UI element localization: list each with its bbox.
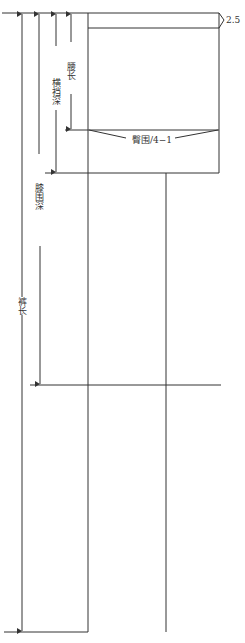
crotch-depth-label: 横裆深 <box>51 78 61 105</box>
waistband-bracket <box>219 13 224 28</box>
knee-depth-label: 膝围深 <box>34 183 44 210</box>
hip-measure-right <box>175 130 218 138</box>
hip-measure-left <box>89 130 126 138</box>
hip-length-label: 腰长 <box>66 62 76 80</box>
pattern-diagram: 2.5 臀围/4−1 <box>0 0 245 643</box>
hip-measure-label: 臀围/4−1 <box>132 135 172 145</box>
trouser-length-label: 裤长 <box>17 297 27 315</box>
waistband-label: 2.5 <box>226 15 241 25</box>
